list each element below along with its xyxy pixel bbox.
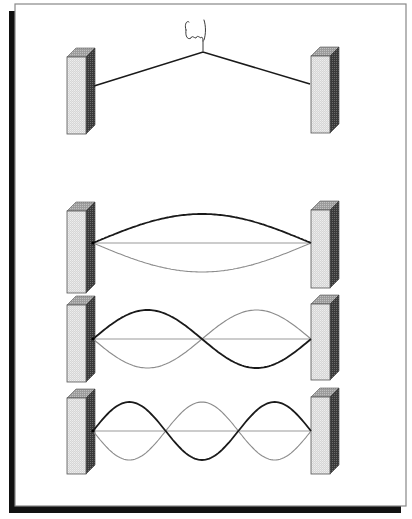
- standing-waves-diagram: [0, 0, 412, 519]
- right-post: [311, 47, 339, 133]
- post-front-face: [67, 211, 86, 293]
- post-front-face: [311, 397, 330, 474]
- post-front-face: [67, 398, 86, 474]
- post-side-face: [330, 201, 339, 288]
- post-side-face: [86, 48, 95, 134]
- left-post: [67, 48, 95, 134]
- frame-shadow-left: [9, 11, 15, 513]
- post-front-face: [311, 304, 330, 380]
- right-post: [311, 201, 339, 288]
- anchor-node: [91, 241, 94, 244]
- post-front-face: [311, 210, 330, 288]
- post-front-face: [67, 57, 86, 134]
- post-front-face: [67, 305, 86, 382]
- frame-shadow-bottom: [9, 506, 401, 513]
- post-side-face: [330, 388, 339, 474]
- left-post: [67, 202, 95, 293]
- post-side-face: [330, 295, 339, 380]
- anchor-node: [91, 429, 94, 432]
- right-post: [311, 388, 339, 474]
- left-post: [67, 296, 95, 382]
- right-post: [311, 295, 339, 380]
- post-front-face: [311, 56, 330, 133]
- post-side-face: [86, 202, 95, 293]
- diagram-canvas: [0, 0, 412, 519]
- anchor-node: [91, 337, 94, 340]
- post-side-face: [330, 47, 339, 133]
- left-post: [67, 389, 95, 474]
